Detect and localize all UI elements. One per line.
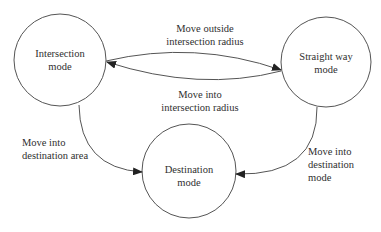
edge-intersection-to-destination xyxy=(79,105,142,172)
edge-label-destination-area-line1: Move into xyxy=(22,136,88,149)
destination-node-label: Destination mode xyxy=(149,163,229,189)
edge-label-move-outside-line2: intersection radius xyxy=(145,35,265,48)
edge-label-destination-mode-line3: mode xyxy=(308,171,354,184)
intersection-node-line2: mode xyxy=(20,60,100,73)
intersection-node-label: Intersection mode xyxy=(20,47,100,73)
edge-straight-to-destination xyxy=(236,107,317,174)
straight-node-line1: Straight way xyxy=(286,50,366,63)
destination-node-line2: mode xyxy=(149,176,229,189)
edge-label-destination-area-line2: destination area xyxy=(22,149,88,162)
straight-node-line2: mode xyxy=(286,63,366,76)
edge-label-destination-mode-line1: Move into xyxy=(308,145,354,158)
edge-intersection-to-straight xyxy=(106,52,281,70)
straight-node-label: Straight way mode xyxy=(286,50,366,76)
edge-straight-to-intersection xyxy=(107,62,281,80)
edge-label-move-into-intersection: Move into intersection radius xyxy=(140,88,260,114)
state-diagram: Intersection mode Straight way mode Dest… xyxy=(0,0,381,232)
edge-label-move-into-destination-mode: Move into destination mode xyxy=(308,145,354,184)
edge-label-move-into-intersection-line1: Move into xyxy=(140,88,260,101)
intersection-node-line1: Intersection xyxy=(20,47,100,60)
edge-label-destination-mode-line2: destination xyxy=(308,158,354,171)
edge-label-move-outside-line1: Move outside xyxy=(145,22,265,35)
edge-label-move-into-intersection-line2: intersection radius xyxy=(140,101,260,114)
destination-node-line1: Destination xyxy=(149,163,229,176)
edge-label-move-outside: Move outside intersection radius xyxy=(145,22,265,48)
edge-label-move-into-destination-area: Move into destination area xyxy=(22,136,88,162)
